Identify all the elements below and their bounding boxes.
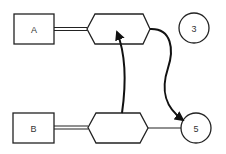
- node-a[interactable]: A: [14, 14, 54, 44]
- diagram-canvas: A 3 B 5: [0, 0, 226, 154]
- node-circle-3[interactable]: 3: [179, 13, 209, 43]
- edge-hex-top-to-circle-5-arrow: [150, 29, 183, 120]
- node-hex-bottom[interactable]: [88, 113, 148, 143]
- node-circle-5-label: 5: [193, 124, 198, 134]
- edge-b-to-hex-bottom: [54, 126, 88, 129]
- node-circle-5[interactable]: 5: [181, 113, 211, 143]
- edge-a-to-hex-top: [54, 28, 87, 31]
- node-circle-3-label: 3: [191, 24, 196, 34]
- node-a-label: A: [31, 25, 37, 35]
- node-hex-top[interactable]: [87, 14, 150, 44]
- node-b-label: B: [30, 124, 36, 134]
- node-b[interactable]: B: [13, 113, 54, 143]
